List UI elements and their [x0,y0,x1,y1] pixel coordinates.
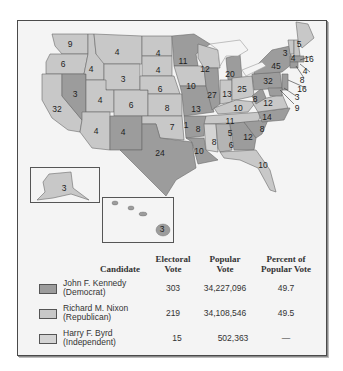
state-oregon [46,54,88,74]
header-electoral: Electoral Vote [148,254,198,274]
ev-kansas: 8 [165,104,170,113]
ev-iowa: 10 [186,82,195,91]
ev-kentucky: 10 [233,104,242,113]
state-new-jersey [282,74,288,90]
ev-maryland: 9 [295,104,300,113]
ev-south-carolina: 8 [260,125,265,134]
header-popular: Popular Vote [198,254,252,274]
ev-hawaii: 3 [160,225,165,234]
candidate-party: (Republican) [63,313,128,322]
candidate-nixon: Richard M. Nixon (Republican) [63,304,128,322]
ev-new-mexico: 4 [121,128,126,137]
ev-louisiana: 10 [194,147,203,156]
ev-north-dakota: 4 [156,49,161,58]
ev-pennsylvania: 32 [263,77,272,86]
header-percent: Percent of Popular Vote [252,254,320,274]
election-map: 9 6 32 3 4 4 3 4 6 4 4 4 4 6 8 7 1 24 11… [0,0,343,250]
ev-ohio: 25 [237,85,246,94]
ev-illinois: 27 [207,91,216,100]
candidate-byrd: Harry F. Byrd (Independent) [63,329,116,347]
swatch-byrd [39,334,57,344]
ev-massachusetts: 16 [304,55,313,64]
popular-vote: 34,227,096 [190,283,260,293]
ev-wyoming: 3 [121,75,126,84]
legend-row-nixon: Richard M. Nixon (Republican) 219 34,108… [30,304,320,328]
popular-vote: 34,108,546 [190,308,260,318]
electoral-vote: 219 [158,308,188,318]
ev-idaho: 4 [89,65,94,74]
ev-arizona: 4 [94,127,99,136]
ev-wisconsin: 12 [200,65,209,74]
candidate-kennedy: John F. Kennedy (Democrat) [63,279,126,297]
legend-row-kennedy: John F. Kennedy (Democrat) 303 34,227,09… [30,279,320,303]
ev-maine: 5 [297,40,302,49]
candidate-party: (Democrat) [63,288,126,297]
ev-oklahoma-byrd: 1 [184,121,189,130]
ev-florida: 10 [258,161,267,170]
candidate-party: (Independent) [63,338,116,347]
ev-alabama-kennedy: 5 [228,129,233,138]
ev-alabama-byrd: 6 [229,141,234,150]
ev-georgia: 12 [243,133,252,142]
state-new-mexico [110,116,142,150]
ev-utah: 4 [98,96,103,105]
ev-west-virginia: 8 [253,95,258,104]
percent-vote: 49.7 [266,283,306,293]
ev-south-dakota: 4 [156,66,161,75]
ev-nevada: 3 [73,90,78,99]
ev-oregon: 6 [61,60,66,69]
ev-oklahoma: 7 [170,123,175,132]
ev-nebraska: 6 [158,85,163,94]
ev-mississippi: 8 [212,138,217,147]
ev-washington: 9 [68,40,73,49]
percent-vote: 49.5 [266,308,306,318]
header-popular-line1: Popular [198,254,252,264]
ev-missouri: 13 [191,105,200,114]
ev-virginia: 12 [263,99,272,108]
electoral-vote: 15 [162,333,192,343]
header-percent-line2: Popular Vote [252,264,320,274]
state-florida [220,150,276,192]
header-electoral-line1: Electoral [148,254,198,264]
percent-vote: — [266,333,306,343]
ev-indiana: 13 [222,90,231,99]
electoral-vote: 303 [158,283,188,293]
ev-montana: 4 [115,48,120,57]
popular-vote: 502,363 [198,333,268,343]
swatch-nixon [39,309,57,319]
ev-arkansas: 8 [196,125,201,134]
ev-michigan: 20 [225,70,234,79]
header-percent-line1: Percent of [252,254,320,264]
ev-delaware: 3 [295,93,300,102]
legend-row-byrd: Harry F. Byrd (Independent) 15 502,363 — [30,329,320,353]
ev-texas: 24 [155,149,164,158]
header-popular-line2: Vote [198,264,252,274]
ev-tennessee: 11 [226,117,235,126]
ev-north-carolina: 14 [262,113,271,122]
ev-california: 32 [52,105,61,114]
ev-new-york: 45 [271,62,280,71]
state-maryland [268,88,282,96]
ev-alaska: 3 [62,184,67,193]
hawaii-inset [102,197,174,243]
ev-vermont: 3 [283,49,288,58]
ev-minnesota: 11 [179,57,188,66]
header-electoral-line2: Vote [148,264,198,274]
ev-colorado: 6 [129,101,134,110]
swatch-kennedy [39,284,57,294]
ev-new-hampshire: 4 [291,54,296,63]
